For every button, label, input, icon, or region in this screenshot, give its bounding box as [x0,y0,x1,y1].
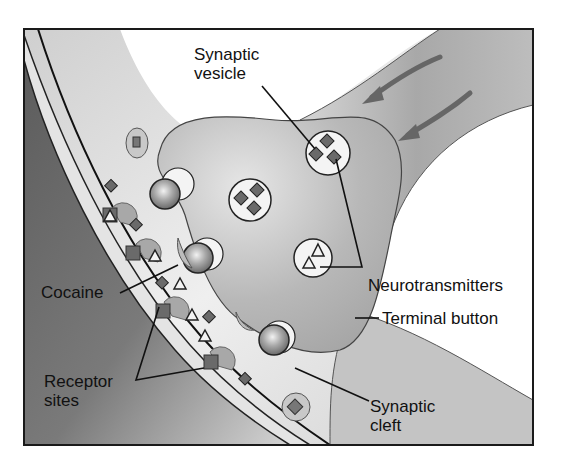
synapse-diagram: Synaptic vesicle Neurotransmitters Termi… [0,0,563,473]
synaptic-vesicle-1 [306,131,350,175]
label-cocaine: Cocaine [41,283,103,302]
label-receptor-sites: Receptor sites [44,372,113,410]
synaptic-vesicle-2 [229,179,271,221]
label-neurotransmitters: Neurotransmitters [368,276,503,295]
synaptic-vesicle-3 [294,239,332,277]
label-terminal-button: Terminal button [382,309,498,328]
label-synaptic-vesicle: Synaptic vesicle [194,45,259,83]
label-synaptic-cleft: Synaptic cleft [370,397,435,435]
